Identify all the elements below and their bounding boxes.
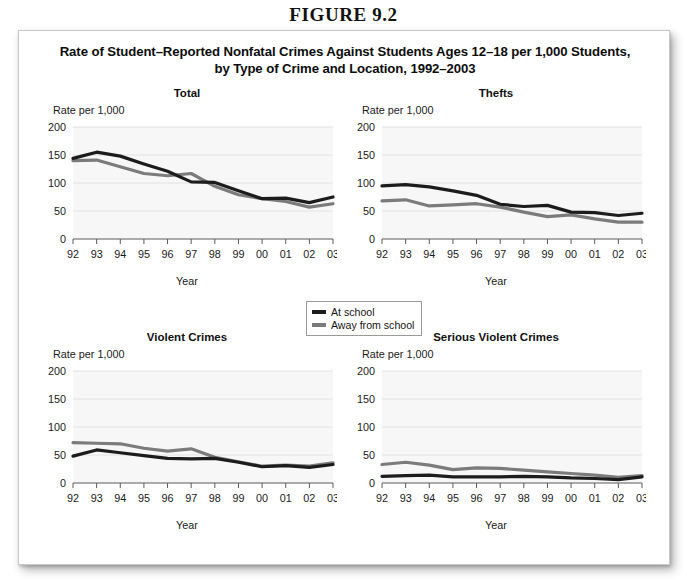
svg-text:95: 95 <box>447 248 459 260</box>
svg-text:02: 02 <box>303 248 315 260</box>
panel-violent-crimes: Violent Crimes Rate per 1,000 2001501005… <box>37 331 337 539</box>
svg-text:150: 150 <box>357 149 375 161</box>
svg-text:99: 99 <box>541 492 553 504</box>
svg-text:97: 97 <box>185 492 197 504</box>
svg-text:50: 50 <box>54 205 66 217</box>
svg-text:93: 93 <box>91 248 103 260</box>
y-axis-unit-label-violent-crimes: Rate per 1,000 <box>53 348 124 360</box>
svg-text:96: 96 <box>162 248 174 260</box>
svg-text:100: 100 <box>48 177 66 189</box>
svg-text:01: 01 <box>280 492 292 504</box>
svg-text:99: 99 <box>541 248 553 260</box>
svg-text:01: 01 <box>589 492 601 504</box>
legend-swatch-away-from-school <box>312 323 326 327</box>
panel-title-total: Total <box>37 87 337 99</box>
svg-text:150: 150 <box>48 393 66 405</box>
svg-text:150: 150 <box>48 149 66 161</box>
svg-text:98: 98 <box>518 492 530 504</box>
chart-title-line-2: by Type of Crime and Location, 1992–2003 <box>31 60 659 77</box>
svg-text:93: 93 <box>400 248 412 260</box>
x-axis-title-total: Year <box>37 275 337 287</box>
svg-text:98: 98 <box>209 492 221 504</box>
svg-text:99: 99 <box>232 248 244 260</box>
svg-text:00: 00 <box>565 492 577 504</box>
svg-text:92: 92 <box>376 492 388 504</box>
svg-text:94: 94 <box>114 248 126 260</box>
x-axis-title-serious-violent-crimes: Year <box>346 519 646 531</box>
svg-text:200: 200 <box>357 365 375 377</box>
y-axis-unit-label-serious-violent-crimes: Rate per 1,000 <box>362 348 433 360</box>
svg-text:03: 03 <box>636 248 646 260</box>
svg-text:98: 98 <box>209 248 221 260</box>
panel-title-violent-crimes: Violent Crimes <box>37 331 337 343</box>
svg-text:0: 0 <box>60 477 66 489</box>
panel-total: Total Rate per 1,000 2001501005009293949… <box>37 87 337 295</box>
y-axis-unit-label-total: Rate per 1,000 <box>53 104 124 116</box>
svg-text:93: 93 <box>400 492 412 504</box>
svg-text:95: 95 <box>138 492 150 504</box>
panel-thefts: Thefts Rate per 1,000 200150100500929394… <box>346 87 646 295</box>
svg-text:01: 01 <box>589 248 601 260</box>
svg-text:98: 98 <box>518 248 530 260</box>
svg-text:02: 02 <box>612 492 624 504</box>
panel-serious-violent-crimes: Serious Violent Crimes Rate per 1,000 20… <box>346 331 646 539</box>
chart-legend: At school Away from school <box>306 301 422 336</box>
svg-text:94: 94 <box>423 248 435 260</box>
svg-text:100: 100 <box>357 177 375 189</box>
svg-text:92: 92 <box>67 492 79 504</box>
figure-number: FIGURE 9.2 <box>0 4 687 26</box>
svg-text:02: 02 <box>303 492 315 504</box>
svg-text:97: 97 <box>494 248 506 260</box>
svg-text:94: 94 <box>423 492 435 504</box>
svg-text:0: 0 <box>369 477 375 489</box>
legend-swatch-at-school <box>312 310 326 314</box>
svg-text:200: 200 <box>48 365 66 377</box>
svg-text:100: 100 <box>357 421 375 433</box>
svg-text:95: 95 <box>447 492 459 504</box>
svg-text:99: 99 <box>232 492 244 504</box>
svg-text:97: 97 <box>185 248 197 260</box>
svg-text:94: 94 <box>114 492 126 504</box>
x-axis-title-thefts: Year <box>346 275 646 287</box>
svg-text:00: 00 <box>256 248 268 260</box>
svg-text:96: 96 <box>471 248 483 260</box>
svg-text:92: 92 <box>376 248 388 260</box>
svg-text:0: 0 <box>60 233 66 245</box>
x-axis-title-violent-crimes: Year <box>37 519 337 531</box>
svg-text:00: 00 <box>256 492 268 504</box>
chart-title: Rate of Student–Reported Nonfatal Crimes… <box>31 43 659 77</box>
svg-text:95: 95 <box>138 248 150 260</box>
svg-text:50: 50 <box>363 205 375 217</box>
svg-text:92: 92 <box>67 248 79 260</box>
svg-text:200: 200 <box>357 121 375 133</box>
chart-title-line-1: Rate of Student–Reported Nonfatal Crimes… <box>60 44 631 59</box>
panel-title-thefts: Thefts <box>346 87 646 99</box>
svg-text:100: 100 <box>48 421 66 433</box>
svg-text:03: 03 <box>327 492 337 504</box>
svg-text:0: 0 <box>369 233 375 245</box>
svg-text:96: 96 <box>162 492 174 504</box>
svg-text:50: 50 <box>363 449 375 461</box>
chart-plot-serious-violent-crimes: 200150100500929394959697989900010203 <box>346 361 646 519</box>
chart-plot-total: 200150100500929394959697989900010203 <box>37 117 337 275</box>
figure-card: Rate of Student–Reported Nonfatal Crimes… <box>18 30 670 565</box>
svg-text:00: 00 <box>565 248 577 260</box>
svg-text:03: 03 <box>636 492 646 504</box>
chart-plot-violent-crimes: 200150100500929394959697989900010203 <box>37 361 337 519</box>
svg-text:50: 50 <box>54 449 66 461</box>
legend-label-at-school: At school <box>331 306 375 318</box>
svg-text:200: 200 <box>48 121 66 133</box>
legend-item-away-from-school: Away from school <box>312 318 414 331</box>
svg-text:96: 96 <box>471 492 483 504</box>
legend-label-away-from-school: Away from school <box>331 319 414 331</box>
svg-text:150: 150 <box>357 393 375 405</box>
legend-item-at-school: At school <box>312 305 414 318</box>
svg-text:01: 01 <box>280 248 292 260</box>
chart-plot-thefts: 200150100500929394959697989900010203 <box>346 117 646 275</box>
y-axis-unit-label-thefts: Rate per 1,000 <box>362 104 433 116</box>
svg-text:03: 03 <box>327 248 337 260</box>
svg-text:93: 93 <box>91 492 103 504</box>
svg-text:97: 97 <box>494 492 506 504</box>
svg-text:02: 02 <box>612 248 624 260</box>
